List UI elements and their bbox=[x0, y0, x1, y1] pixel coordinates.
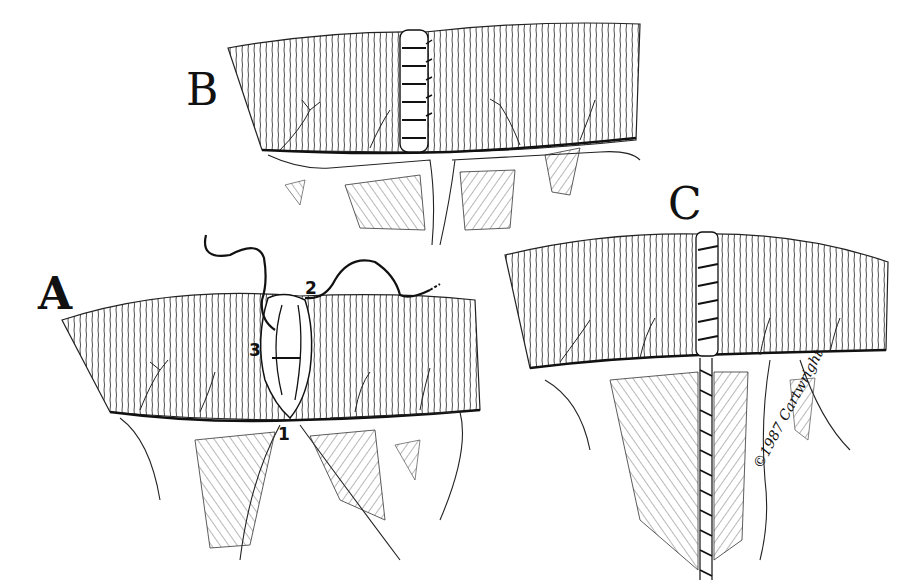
bowel-wall-b bbox=[228, 23, 640, 152]
illustration-canvas bbox=[0, 0, 912, 587]
mesenteric-suture-c bbox=[700, 358, 712, 580]
suture-line-b bbox=[400, 30, 432, 152]
panel-a bbox=[62, 235, 480, 560]
panel-c bbox=[505, 232, 888, 580]
suture-number-1: 1 bbox=[278, 426, 290, 443]
panel-label-c: C bbox=[668, 182, 702, 226]
suture-line-c bbox=[696, 232, 718, 356]
panel-label-b: B bbox=[186, 68, 218, 112]
suture-number-3: 3 bbox=[249, 342, 261, 359]
panel-label-a: A bbox=[38, 272, 72, 316]
panel-b bbox=[228, 22, 640, 245]
stay-suture-right bbox=[305, 260, 430, 298]
suture-number-2: 2 bbox=[305, 280, 317, 297]
